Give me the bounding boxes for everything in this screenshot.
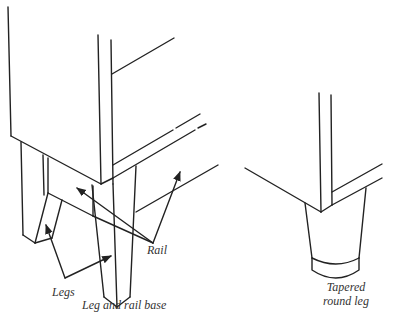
rail-label: Rail	[147, 244, 167, 258]
leg-and-rail-base-figure	[8, 7, 218, 307]
tapered-caption-line1: Tapered	[311, 281, 381, 295]
tapered-caption-line2: round leg	[311, 295, 381, 309]
leg-and-rail-base-caption: Leg and rail base	[82, 299, 166, 313]
tapered-round-leg-caption: Tapered round leg	[311, 281, 381, 309]
furniture-base-diagram	[0, 0, 396, 323]
tapered-round-leg-figure	[245, 93, 382, 278]
legs-label: Legs	[52, 286, 75, 300]
